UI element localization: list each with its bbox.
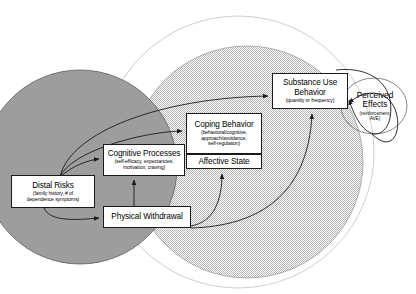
node-title: Coping Behavior bbox=[194, 120, 253, 129]
node-subtitle: (quantity or frequency) bbox=[286, 98, 335, 104]
node-title: Perceived bbox=[357, 91, 393, 100]
diagram-canvas: Substance Use Behavior (quantity or freq… bbox=[0, 0, 416, 294]
node-title: Affective State bbox=[198, 157, 249, 166]
node-title: Physical Withdrawal bbox=[111, 212, 182, 221]
node-cognitive-processes[interactable]: Cognitive Processes (self-efficacy, expe… bbox=[103, 144, 185, 176]
node-physical-withdrawal[interactable]: Physical Withdrawal bbox=[103, 206, 191, 228]
node-title-line2: Behavior bbox=[294, 88, 326, 97]
node-substance-use-behavior[interactable]: Substance Use Behavior (quantity or freq… bbox=[272, 73, 348, 109]
node-coping-behavior[interactable]: Coping Behavior (behavioral/cognitive, a… bbox=[186, 113, 262, 154]
node-subtitle: (reinforcement, AVE) bbox=[360, 111, 391, 121]
node-perceived-effects[interactable]: Perceived Effects (reinforcement, AVE) bbox=[344, 80, 406, 132]
node-title-line2: Effects bbox=[363, 100, 388, 109]
node-subtitle: (self-efficacy, expectancies, motivation… bbox=[114, 159, 173, 170]
node-title: Distal Risks bbox=[32, 181, 74, 190]
node-title: Cognitive Processes bbox=[108, 149, 181, 158]
node-subtitle: (behavioral/cognitive, approach/avoidanc… bbox=[201, 130, 247, 147]
node-distal-risks[interactable]: Distal Risks (family history, # of depen… bbox=[11, 175, 95, 208]
node-subtitle: (family history, # of dependence symptom… bbox=[27, 191, 79, 202]
node-affective-state[interactable]: Affective State bbox=[186, 154, 262, 169]
node-title: Substance Use bbox=[283, 78, 337, 87]
